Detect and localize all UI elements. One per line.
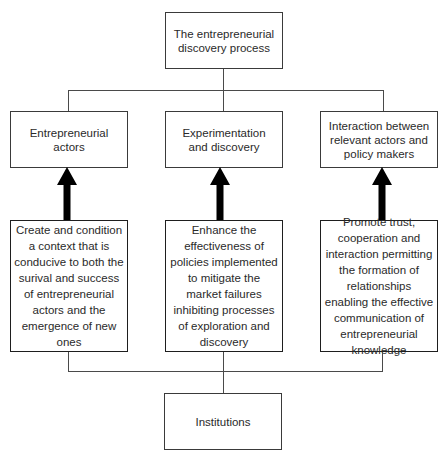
connector-bottom-horizontal	[68, 371, 383, 372]
arrow-up-icon	[371, 167, 393, 221]
connector-lower-right-vertical	[382, 352, 383, 372]
box-create-condition-context: Create and condition a context that is c…	[10, 220, 128, 352]
box-label: Enhance the effectiveness of policies im…	[169, 222, 279, 350]
connector-middle-vertical	[223, 90, 224, 111]
connector-top-vertical	[223, 69, 224, 90]
connector-left-vertical	[68, 90, 69, 111]
box-label: Experimentation and discovery	[179, 126, 269, 154]
box-institutions: Institutions	[164, 393, 282, 450]
box-interaction-actors-policy-makers: Interaction between relevant actors and …	[320, 111, 438, 168]
box-promote-trust-cooperation: Promote trust, cooperation and interacti…	[320, 220, 438, 352]
box-label: Entrepreneurial actors	[29, 126, 109, 154]
arrow-up-icon	[56, 167, 78, 221]
box-label: Institutions	[196, 415, 251, 429]
connector-right-vertical	[383, 90, 384, 111]
box-label: The entrepreneurial discovery process	[170, 27, 278, 55]
box-enhance-policy-effectiveness: Enhance the effectiveness of policies im…	[165, 220, 283, 352]
arrow-up-icon	[209, 167, 231, 221]
box-entrepreneurial-discovery-process: The entrepreneurial discovery process	[165, 12, 283, 69]
connector-lower-middle-vertical	[223, 352, 224, 393]
box-label: Create and condition a context that is c…	[14, 222, 124, 350]
box-experimentation-and-discovery: Experimentation and discovery	[165, 111, 283, 168]
box-label: Promote trust, cooperation and interacti…	[324, 214, 434, 358]
box-label: Interaction between relevant actors and …	[327, 119, 431, 161]
box-entrepreneurial-actors: Entrepreneurial actors	[10, 111, 128, 168]
connector-lower-left-vertical	[68, 352, 69, 372]
connector-top-horizontal	[68, 90, 384, 91]
